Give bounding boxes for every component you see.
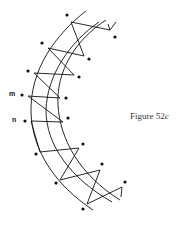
dot-n [23,119,26,122]
caption-prefix: Figure 52 [130,111,165,121]
dot-m [20,93,23,96]
caption-suffix: c [165,111,169,121]
label-n: n [12,116,16,123]
label-m: m [9,90,15,97]
figure-caption: Figure 52c [130,111,169,121]
outer-arc [31,11,93,210]
dots [20,13,126,210]
